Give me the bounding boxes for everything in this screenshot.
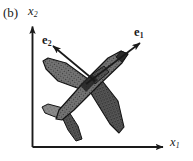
x2-axis-label-subscript: 2 — [34, 10, 38, 19]
vector-e2-label-subscript: 2 — [48, 39, 52, 48]
x1-axis-label: x1 — [170, 136, 180, 150]
airplane-shape — [42, 51, 128, 141]
panel-label: (b) — [3, 6, 18, 19]
vector-e1-label-subscript: 1 — [140, 31, 144, 40]
vector-e1-label: e1 — [134, 26, 144, 40]
vector-e1-label-base: e — [134, 25, 140, 39]
x2-axis-label: x2 — [28, 5, 38, 19]
vector-e2-label: e2 — [42, 34, 52, 48]
x1-axis-label-subscript: 1 — [176, 141, 180, 150]
figure-panel-b: (b) x2 x1 e1 e2 — [0, 0, 193, 161]
figure-drawing — [0, 0, 193, 161]
x2-axis-label-base: x — [28, 4, 34, 18]
vector-e1-arrow — [86, 43, 140, 84]
x1-axis-label-base: x — [170, 135, 176, 149]
vector-e2-label-base: e — [42, 33, 48, 47]
